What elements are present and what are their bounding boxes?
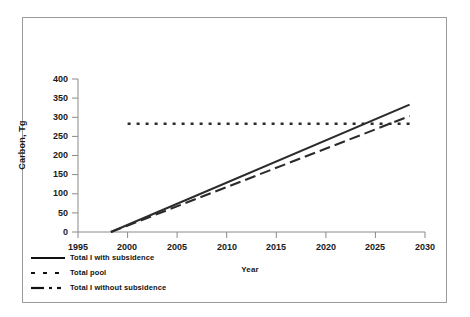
y-tick-label-50: 50 bbox=[38, 208, 68, 218]
y-tick-label-250: 250 bbox=[38, 131, 68, 141]
legend-swatch-solid-line-icon bbox=[30, 253, 66, 263]
legend-swatch-dashed-line-icon bbox=[30, 283, 66, 293]
y-tick-label-200: 200 bbox=[38, 150, 68, 160]
legend-swatch-dotted-line-icon bbox=[30, 268, 66, 278]
y-tick-label-300: 300 bbox=[38, 112, 68, 122]
figure-container: 400 350 300 250 200 150 100 50 0 1995 20… bbox=[0, 0, 470, 317]
x-tick-label-2025: 2025 bbox=[355, 242, 395, 252]
legend-label-total-pool: Total pool bbox=[70, 268, 106, 277]
legend-label-total-with-subsidence: Total I with subsidence bbox=[70, 253, 154, 262]
legend-item-total-pool: Total pool bbox=[30, 265, 270, 280]
y-tick-label-150: 150 bbox=[38, 169, 68, 179]
legend-item-total-without-subsidence: Total I without subsidence bbox=[30, 280, 270, 295]
y-axis-ticks bbox=[72, 79, 78, 232]
x-tick-label-2030: 2030 bbox=[405, 242, 445, 252]
legend-label-total-without-subsidence: Total I without subsidence bbox=[70, 283, 166, 292]
chart-legend: Total I with subsidence Total pool Total… bbox=[30, 250, 270, 295]
x-axis-ticks bbox=[78, 232, 425, 238]
y-tick-label-400: 400 bbox=[38, 74, 68, 84]
y-tick-label-350: 350 bbox=[38, 93, 68, 103]
y-axis-title: Carbon, Tg bbox=[17, 105, 27, 185]
x-tick-label-2020: 2020 bbox=[306, 242, 346, 252]
y-tick-label-0: 0 bbox=[38, 227, 68, 237]
y-tick-label-100: 100 bbox=[38, 188, 68, 198]
legend-item-total-with-subsidence: Total I with subsidence bbox=[30, 250, 270, 265]
series-total-without-subsidence bbox=[111, 116, 410, 232]
